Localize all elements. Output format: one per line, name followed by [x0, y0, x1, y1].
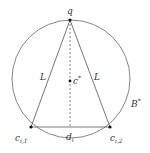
label-c-i-1: ci,1 — [15, 133, 28, 144]
label-c-star: c* — [73, 74, 81, 86]
point-q — [68, 18, 71, 21]
label-q: q — [67, 6, 73, 16]
diagram-canvas: q c* L L B* ci,1 ci,2 di — [0, 0, 150, 153]
label-c-i-2: ci,2 — [110, 133, 123, 144]
point-c-star — [69, 80, 72, 83]
label-b-star: B* — [130, 97, 141, 109]
side-right-L — [70, 20, 110, 127]
label-left-L: L — [39, 72, 46, 82]
label-d-i: di — [66, 132, 74, 143]
side-left-L — [31, 20, 70, 127]
label-right-L: L — [93, 72, 100, 82]
point-c-i-1 — [29, 125, 32, 128]
point-c-i-2 — [108, 125, 111, 128]
circle-b-star — [12, 20, 130, 138]
